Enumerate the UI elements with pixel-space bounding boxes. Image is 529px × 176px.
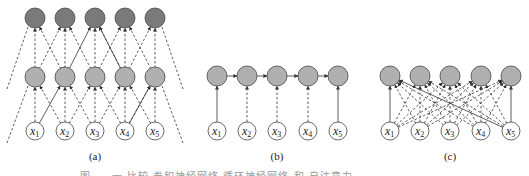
dangling-edge <box>162 27 183 89</box>
top-hidden-node <box>115 8 135 28</box>
hidden-node <box>237 66 257 86</box>
panel-label: (a) <box>89 150 102 163</box>
top-hidden-node <box>85 8 105 28</box>
dangling-edge <box>7 27 28 89</box>
dangling-edge <box>162 86 183 143</box>
top-hidden-node <box>55 8 75 28</box>
dashed-edge <box>429 81 511 131</box>
hidden-node <box>207 66 227 86</box>
hidden-node <box>328 66 348 86</box>
top-hidden-node <box>25 8 45 28</box>
figure-caption: 图 . . 一 比较 卷积神经网络 循环神经网络 和 自注意力 <box>80 168 353 176</box>
mid-hidden-node <box>25 67 45 87</box>
dashed-edge <box>399 81 481 131</box>
hidden-node <box>380 66 400 86</box>
hidden-node <box>298 66 318 86</box>
figure-canvas: x1x2x3x4x5(a)x1x2x3x4x5(b)x1x2x3x4x5(c) <box>0 0 529 176</box>
dangling-edge <box>7 86 28 143</box>
panel-label: (c) <box>444 150 457 163</box>
mid-hidden-node <box>55 67 75 87</box>
hidden-node <box>501 66 521 86</box>
dashed-edge <box>420 81 502 131</box>
hidden-node <box>440 66 460 86</box>
mid-hidden-node <box>85 67 105 87</box>
mid-hidden-node <box>145 67 165 87</box>
mid-hidden-node <box>115 67 135 87</box>
top-hidden-node <box>145 8 165 28</box>
hidden-node <box>471 66 491 86</box>
dashed-edge <box>390 81 472 131</box>
hidden-node <box>267 66 287 86</box>
panel-label: (b) <box>271 150 284 163</box>
hidden-node <box>410 66 430 86</box>
